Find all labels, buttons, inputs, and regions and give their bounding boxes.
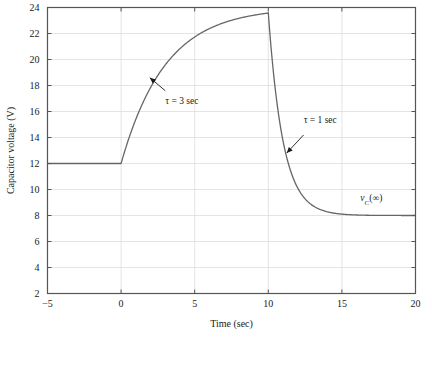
chart-figure: −505101520 24681012141618202224 Time (se… [0, 0, 432, 367]
x-tick-label-5: 20 [411, 298, 421, 309]
chart-background [0, 0, 432, 367]
capacitor-voltage-chart: −505101520 24681012141618202224 Time (se… [0, 0, 432, 367]
y-tick-label-10: 22 [30, 28, 40, 39]
x-tick-label-1: 0 [119, 298, 124, 309]
annotation-tau-charge: τ = 3 sec [165, 96, 198, 106]
y-tick-label-1: 4 [35, 262, 40, 273]
x-tick-label-0: −5 [42, 298, 53, 309]
y-tick-label-3: 8 [35, 210, 40, 221]
y-tick-label-9: 20 [30, 54, 40, 65]
x-tick-label-3: 10 [263, 298, 273, 309]
y-tick-label-6: 14 [30, 132, 40, 143]
y-axis-title: Capacitor voltage (V) [5, 107, 17, 194]
y-tick-label-8: 18 [30, 80, 40, 91]
y-tick-label-0: 2 [35, 288, 40, 299]
annotation-tau-discharge: τ = 1 sec [304, 115, 337, 125]
y-tick-label-5: 12 [30, 158, 40, 169]
y-tick-label-2: 6 [35, 236, 40, 247]
x-tick-label-2: 5 [192, 298, 197, 309]
x-tick-label-4: 15 [337, 298, 347, 309]
annotation-rest: (∞) [369, 193, 382, 204]
y-tick-label-11: 24 [30, 2, 40, 13]
x-axis-title: Time (sec) [210, 318, 253, 330]
y-tick-label-7: 16 [30, 106, 40, 117]
y-tick-label-4: 10 [30, 184, 40, 195]
